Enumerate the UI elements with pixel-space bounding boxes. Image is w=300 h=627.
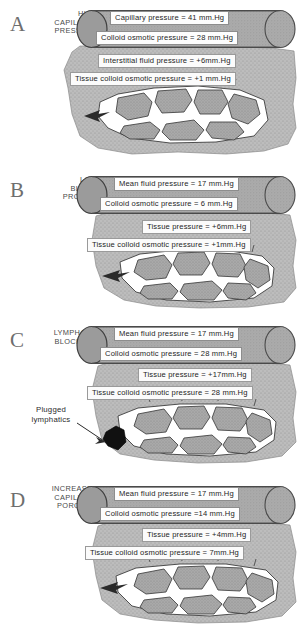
annotation-line: lymphatics — [22, 415, 80, 425]
colloid-osmotic-pressure-label-c: Colloid osmotic pressure = 28 mm.Hg — [100, 347, 242, 361]
edema-mechanisms-figure: A HIGH CAPILLARY PRESSURE — [0, 0, 300, 627]
mean-fluid-pressure-label-b: Mean fluid pressure = 17 mm.Hg — [114, 177, 239, 191]
tissue-pressure-label-b: Tissue pressure = +6mm.Hg — [142, 220, 251, 234]
plugged-lymphatics-arrow — [76, 422, 116, 448]
mean-fluid-pressure-label-c: Mean fluid pressure = 17 mm.Hg — [114, 327, 239, 341]
tissue-pressure-label-d: Tissue pressure = +4mm.Hg — [142, 528, 251, 542]
mean-fluid-pressure-label-d: Mean fluid pressure = 17 mm.Hg — [114, 487, 239, 501]
panel-letter-a: A — [10, 14, 25, 35]
panel-a: A HIGH CAPILLARY PRESSURE — [0, 0, 300, 160]
interstitial-fluid-pressure-label-a: Interstitial fluid pressure = +6mm.Hg — [98, 54, 236, 68]
annotation-line: Plugged — [22, 405, 80, 415]
tissue-colloid-osmotic-pressure-label-a: Tissue colloid osmotic pressure = +1 mm.… — [70, 72, 236, 86]
colloid-osmotic-pressure-label-b: Colloid osmotic pressure = 6 mm.Hg — [100, 197, 238, 211]
panel-b: B LOW BLOOD PROTEIN — [0, 160, 300, 310]
panel-letter-b: B — [10, 180, 24, 201]
tissue-colloid-osmotic-pressure-label-d: Tissue colloid osmotic pressure = 7mm.Hg — [85, 546, 244, 560]
panel-c: C LYMPHATIC BLOCKAGE — [0, 310, 300, 465]
plugged-lymphatics-annotation: Plugged lymphatics — [22, 405, 80, 424]
tissue-pressure-label-c: Tissue pressure = +17mm.Hg — [138, 368, 252, 382]
panel-d: D INCREASED CAPILLARY POROSITY — [0, 465, 300, 627]
panel-letter-d: D — [10, 490, 25, 511]
capillary-pressure-label-a: Capillary pressure = 41 mm.Hg — [110, 11, 229, 25]
colloid-osmotic-pressure-label-a: Colloid osmotic pressure = 28 mm.Hg — [96, 31, 238, 45]
panel-letter-c: C — [10, 330, 24, 351]
tissue-colloid-osmotic-pressure-label-b: Tissue colloid osmotic pressure = +1mm.H… — [87, 238, 251, 252]
colloid-osmotic-pressure-label-d: Colloid osmotic pressure =14 mm.Hg — [100, 507, 240, 521]
tissue-colloid-osmotic-pressure-label-c: Tissue colloid osmotic pressure = 28 mm.… — [87, 386, 253, 400]
